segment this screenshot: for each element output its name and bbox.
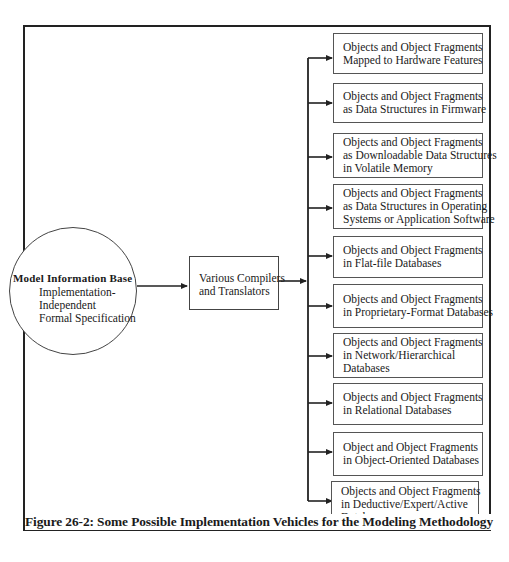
compilers-translators-node: Various Compilers and Translators (189, 256, 279, 310)
target-firmware: Objects and Object Fragments as Data Str… (333, 83, 483, 123)
figure-caption: Figure 26-2: Some Possible Implementatio… (25, 514, 493, 530)
target-hardware-features: Objects and Object Fragments Mapped to H… (333, 33, 483, 74)
model-information-base-node: Model Information Base Implementation- I… (9, 227, 137, 355)
target-network-hierarchical-databases: Objects and Object Fragments in Network/… (333, 333, 483, 378)
target-proprietary-format-databases: Objects and Object Fragments in Propriet… (333, 284, 483, 328)
source-description: Implementation- Independent Formal Speci… (39, 286, 136, 325)
target-volatile-memory: Objects and Object Fragments as Download… (333, 133, 483, 178)
target-relational-databases: Objects and Object Fragments in Relation… (333, 383, 483, 425)
target-flat-file-databases: Objects and Object Fragments in Flat-fil… (333, 236, 483, 278)
target-os-application-software: Objects and Object Fragments as Data Str… (333, 184, 483, 229)
target-object-oriented-databases: Object and Object Fragments in Object-Or… (333, 432, 483, 476)
source-title: Model Information Base (13, 272, 132, 284)
